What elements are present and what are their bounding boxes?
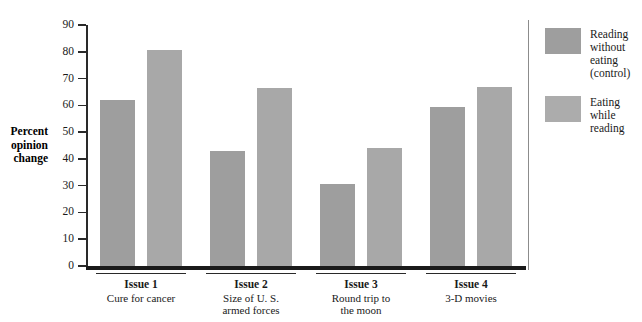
y-axis-tick	[78, 78, 86, 80]
y-axis-tick-label: 0	[50, 260, 74, 272]
category-sublabel: Size of U. S. armed forces	[196, 292, 306, 317]
category-title: Issue 4	[416, 278, 526, 291]
y-axis-tick	[78, 212, 86, 214]
y-axis-tick	[78, 24, 86, 26]
y-axis-tick	[78, 51, 86, 53]
y-axis-tick	[78, 265, 86, 267]
legend-item: Eating while reading	[545, 96, 624, 135]
legend-label: Eating while reading	[590, 96, 624, 135]
bar-chart: 9080706050403020100 Percent opinion chan…	[0, 0, 642, 322]
y-axis-tick-label: 80	[50, 46, 74, 58]
category-label-group: Issue 3Round trip to the moon	[306, 278, 416, 317]
category-label-group: Issue 43-D movies	[416, 278, 526, 304]
bar	[430, 107, 465, 266]
legend-item: Reading without eating (control)	[545, 28, 630, 80]
category-rule	[426, 273, 516, 274]
bar	[100, 100, 135, 266]
bar	[210, 151, 245, 266]
x-axis-line	[86, 266, 526, 270]
y-axis-tick	[78, 238, 86, 240]
bar	[367, 148, 402, 266]
legend-swatch	[545, 96, 581, 122]
y-axis-tick-label: 20	[50, 206, 74, 218]
y-axis-tick-label: 90	[50, 19, 74, 31]
bar	[147, 50, 182, 266]
plot-area	[86, 25, 526, 266]
category-sublabel: 3-D movies	[416, 292, 526, 305]
y-axis-tick	[78, 185, 86, 187]
legend-label: Reading without eating (control)	[590, 28, 630, 80]
category-rule	[316, 273, 406, 274]
category-sublabel: Cure for cancer	[86, 292, 196, 305]
y-axis-tick-label: 70	[50, 73, 74, 85]
category-rule	[96, 273, 186, 274]
y-axis-tick	[78, 131, 86, 133]
bar	[257, 88, 292, 266]
y-axis-tick-label: 40	[50, 153, 74, 165]
category-sublabel: Round trip to the moon	[306, 292, 416, 317]
category-label-group: Issue 2Size of U. S. armed forces	[196, 278, 306, 317]
y-axis-tick-label: 30	[50, 180, 74, 192]
y-axis-tick-label: 10	[50, 233, 74, 245]
category-rule	[206, 273, 296, 274]
legend-swatch	[545, 28, 581, 54]
category-title: Issue 1	[86, 278, 196, 291]
y-axis-tick	[78, 105, 86, 107]
y-axis-tick-label: 50	[50, 126, 74, 138]
category-label-group: Issue 1Cure for cancer	[86, 278, 196, 304]
category-title: Issue 2	[196, 278, 306, 291]
y-axis-tick-label: 60	[50, 99, 74, 111]
legend-divider	[528, 20, 529, 270]
bar	[320, 184, 355, 266]
category-title: Issue 3	[306, 278, 416, 291]
bar	[477, 87, 512, 266]
y-axis-tick	[78, 158, 86, 160]
y-axis-title: Percent opinion change	[0, 125, 48, 166]
